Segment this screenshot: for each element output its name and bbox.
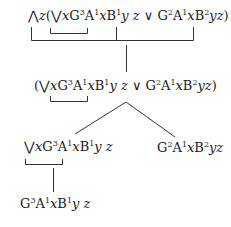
formula-n1: (⋁xG3A1xB1y z ∨ G2A1xB2yz)	[34, 79, 217, 93]
or-symbol: ∨	[128, 78, 146, 93]
forall-symbol: ⋀	[28, 8, 39, 23]
formula-n2-left: ⋁xG3A1xB1y z	[24, 140, 113, 154]
or-symbol: ∨	[140, 8, 158, 23]
formula-root: ⋀z(⋁xG3A1xB1y z ∨ G2A1xB2yz)	[28, 9, 229, 23]
scope-bracket-inner-n1	[51, 96, 88, 102]
tree-connectors	[0, 0, 231, 227]
scope-bracket-inner-n2-left	[26, 159, 63, 165]
exists-symbol: ⋁	[51, 8, 62, 23]
branch-n1-left	[75, 102, 126, 134]
formula-n3: G3A1xB1y z	[20, 197, 90, 211]
branch-n1-right	[126, 102, 175, 137]
scope-bracket-inner-root	[51, 28, 88, 34]
exists-symbol: ⋁	[24, 139, 35, 154]
exists-symbol: ⋁	[39, 78, 50, 93]
formula-n2-right: G2A1xB2yz	[157, 141, 223, 155]
